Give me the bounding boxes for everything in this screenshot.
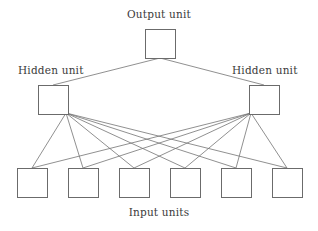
input-unit-i3: [120, 169, 150, 198]
input-unit-i4: [171, 169, 201, 198]
output-unit-o1: [146, 30, 176, 59]
hidden-unit-h1: [39, 86, 69, 115]
connection-line-h1-i6: [66, 113, 287, 168]
neural-network-diagram: Output unit Hidden unit Hidden unit Inpu…: [0, 0, 318, 231]
hidden-unit-right-label: Hidden unit: [232, 64, 298, 76]
input-unit-i5: [222, 169, 252, 198]
output-unit-label: Output unit: [0, 8, 318, 20]
input-unit-i6: [273, 169, 303, 198]
connection-line-h1-i1: [32, 113, 66, 168]
connection-line-h2-i6: [251, 113, 287, 168]
hidden-unit-left-label: Hidden unit: [18, 64, 84, 76]
network-graphic: [0, 0, 318, 231]
input-units-label: Input units: [0, 206, 318, 218]
hidden-unit-h2: [250, 86, 280, 115]
input-unit-i2: [69, 169, 99, 198]
input-unit-i1: [18, 169, 48, 198]
connection-line-h2-i5: [236, 113, 251, 168]
connection-line-h1-i2: [66, 113, 83, 168]
unit-boxes-group: [18, 30, 303, 198]
